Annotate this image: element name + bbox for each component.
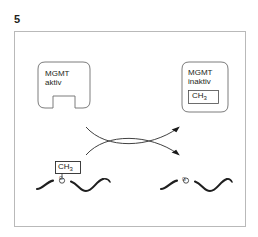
mgmt-inactive-line2: inaktiv [188, 77, 211, 86]
methyl-subscript: 3 [70, 166, 73, 172]
figure-number-label: 5 [14, 14, 20, 25]
guanine-label-right: G [182, 177, 186, 182]
methyl-subscript: 3 [204, 95, 207, 101]
figure-frame-border [14, 31, 246, 227]
mgmt-inactive-methyl-label: CH3 [192, 92, 207, 101]
guanine-label-left: G [59, 176, 63, 181]
figure-root: 5 [0, 0, 258, 237]
mgmt-inactive-label: MGMT inaktiv [188, 69, 212, 86]
mgmt-active-label: MGMT aktiv [45, 70, 69, 87]
dna-methyl-label: CH3 [58, 163, 73, 172]
methyl-text: CH [58, 162, 70, 171]
mgmt-active-line2: aktiv [45, 78, 61, 87]
methyl-text: CH [192, 91, 204, 100]
